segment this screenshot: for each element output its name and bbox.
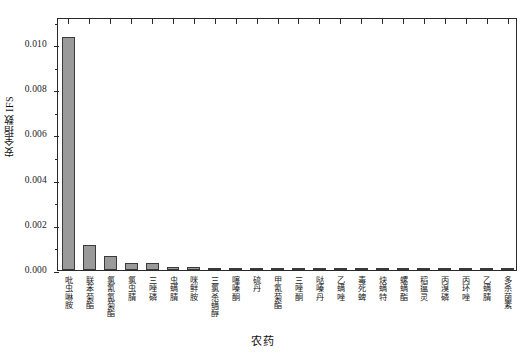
x-tick-mark: [340, 19, 341, 24]
x-tick-mark: [361, 19, 362, 24]
y-minor-tick-mark: [55, 24, 58, 25]
x-tick-mark: [298, 19, 299, 24]
y-tick-label: 0.002: [0, 220, 47, 230]
bar: [271, 268, 284, 270]
bar: [104, 256, 117, 270]
y-minor-tick-mark: [55, 204, 58, 205]
y-minor-tick-mark: [55, 159, 58, 160]
x-tick-mark: [319, 19, 320, 24]
x-tick-label: 氯氰氰菊酯: [105, 276, 114, 318]
x-tick-mark: [110, 19, 111, 24]
x-tick-label: 硫丹: [251, 276, 260, 293]
plot-area: [57, 18, 517, 271]
bar: [459, 268, 472, 270]
bar: [376, 268, 389, 270]
x-tick-label: 哒嗪丹: [314, 276, 323, 301]
x-tick-mark: [257, 19, 258, 24]
bar: [501, 268, 514, 270]
x-tick-mark: [278, 19, 279, 24]
y-tick-mark: [54, 227, 59, 228]
y-tick-mark: [54, 136, 59, 137]
x-tick-label: 咪鲜胺: [188, 276, 197, 301]
x-tick-label: 多杀菌素: [502, 276, 511, 309]
bar: [167, 267, 180, 270]
bar-chart-figure: 安全指数 IFS 0.0000.0020.0040.0060.0080.010 …: [0, 0, 526, 358]
bar: [334, 268, 347, 270]
x-tick-mark: [131, 19, 132, 24]
y-tick-mark: [54, 182, 59, 183]
x-tick-label: 丙溴磷: [439, 276, 448, 301]
bar: [250, 268, 263, 270]
x-tick-label: 炔螨特: [377, 276, 386, 301]
x-tick-label: 毒死蜱: [356, 276, 365, 301]
x-tick-label: 联苯菊酯: [84, 276, 93, 309]
x-tick-label: 氯虫腈: [126, 276, 135, 301]
x-tick-label: 螺螨酯: [398, 276, 407, 301]
y-tick-label: 0.010: [0, 39, 47, 49]
y-minor-tick-mark: [55, 114, 58, 115]
bar: [355, 268, 368, 270]
bar: [62, 37, 75, 270]
x-tick-label: 吡虫啉胺: [63, 276, 72, 309]
bar: [229, 268, 242, 270]
bar: [146, 263, 159, 270]
y-tick-mark: [54, 272, 59, 273]
y-tick-label: 0.004: [0, 175, 47, 185]
x-tick-mark: [152, 19, 153, 24]
y-tick-label: 0.008: [0, 84, 47, 94]
x-tick-mark: [194, 19, 195, 24]
bar: [292, 268, 305, 270]
bar: [187, 267, 200, 270]
bar: [208, 268, 221, 270]
x-tick-mark: [508, 19, 509, 24]
y-minor-tick-mark: [55, 69, 58, 70]
y-tick-label: 0.006: [0, 129, 47, 139]
x-tick-mark: [403, 19, 404, 24]
x-tick-label: 乙螨腈: [481, 276, 490, 301]
x-tick-label: 甲氰菊酯: [272, 276, 281, 309]
x-tick-label: 虫螨腈: [168, 276, 177, 301]
bar: [313, 268, 326, 270]
x-tick-label: 三唑磷: [147, 276, 156, 301]
x-tick-label: 稻瘟灵: [418, 276, 427, 301]
x-tick-mark: [487, 19, 488, 24]
x-tick-mark: [466, 19, 467, 24]
x-tick-label: 三唑酮: [293, 276, 302, 301]
bar: [438, 268, 451, 270]
y-minor-tick-mark: [55, 249, 58, 250]
x-tick-mark: [89, 19, 90, 24]
x-tick-mark: [215, 19, 216, 24]
y-axis-title: 安全指数 IFS: [4, 96, 18, 157]
x-tick-mark: [382, 19, 383, 24]
bar: [397, 268, 410, 270]
bar: [125, 263, 138, 270]
bar: [480, 268, 493, 270]
y-tick-mark: [54, 46, 59, 47]
x-tick-label: 三氯杀螨醇: [209, 276, 218, 318]
x-tick-mark: [424, 19, 425, 24]
bar: [417, 268, 430, 270]
bar: [83, 245, 96, 270]
x-tick-mark: [173, 19, 174, 24]
y-tick-label: 0.000: [0, 265, 47, 275]
x-axis-title: 农药: [0, 332, 526, 348]
x-tick-mark: [68, 19, 69, 24]
x-tick-label: 丙环唑: [460, 276, 469, 301]
x-tick-label: 乙螨唑: [335, 276, 344, 301]
y-tick-mark: [54, 91, 59, 92]
x-tick-mark: [236, 19, 237, 24]
x-tick-mark: [445, 19, 446, 24]
bar-series: [58, 19, 516, 270]
x-tick-label: 噻嗪酮: [230, 276, 239, 301]
